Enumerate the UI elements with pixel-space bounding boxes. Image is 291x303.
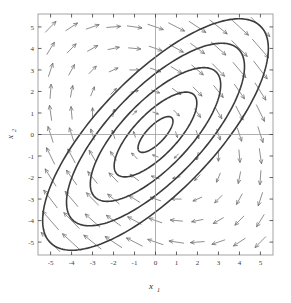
y-tick-label: 3: [31, 67, 35, 75]
x-tick-label: -5: [48, 259, 54, 267]
y-tick-label: 5: [31, 24, 35, 32]
y-tick-label: -1: [28, 153, 34, 161]
y-tick-label: -4: [28, 217, 34, 225]
y-tick-label: -5: [28, 239, 34, 247]
y-tick-label: 0: [31, 131, 35, 139]
y-tick-label: -2: [28, 174, 34, 182]
svg-text:1: 1: [157, 287, 160, 293]
x-tick-label: -1: [132, 259, 138, 267]
x-tick-label: 3: [217, 259, 221, 267]
x-tick-label: -3: [90, 259, 96, 267]
x-tick-label: 4: [238, 259, 242, 267]
y-tick-label: 2: [31, 88, 35, 96]
svg-text:2: 2: [11, 129, 17, 132]
svg-text:x: x: [148, 281, 153, 291]
x-tick-label: -4: [69, 259, 75, 267]
figure-container: -5-4-3-2-1012345-5-4-3-2-1012345 x 1 x 2: [0, 0, 291, 303]
y-tick-label: 4: [31, 45, 35, 53]
y-tick-label: 1: [31, 110, 35, 118]
phase-portrait-plot: -5-4-3-2-1012345-5-4-3-2-1012345 x 1 x 2: [0, 0, 291, 303]
x-tick-label: -2: [111, 259, 117, 267]
x-tick-label: 5: [259, 259, 263, 267]
x-tick-label: 0: [154, 259, 158, 267]
y-tick-label: -3: [28, 196, 34, 204]
x-tick-label: 2: [196, 259, 200, 267]
x-tick-label: 1: [175, 259, 179, 267]
svg-text:x: x: [5, 135, 15, 140]
